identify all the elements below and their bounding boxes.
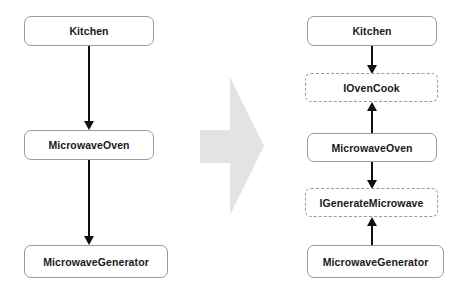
node-microwavegenerator-after[interactable]: MicrowaveGenerator: [307, 245, 444, 278]
node-label: MicrowaveOven: [48, 139, 129, 151]
edge-shaft: [371, 110, 373, 133]
edge-shaft: [88, 160, 90, 237]
arrowhead-down-icon: [84, 236, 94, 245]
arrowhead-up-icon: [367, 217, 377, 226]
node-kitchen-before[interactable]: Kitchen: [24, 16, 154, 46]
node-microwaveoven-before[interactable]: MicrowaveOven: [24, 130, 154, 160]
edge-shaft: [371, 46, 373, 66]
edge-microwaveoven-to-iovencook: [362, 102, 382, 133]
edge-kitchen-to-iovencook: [362, 46, 382, 74]
edge-kitchen-to-microwaveoven: [79, 46, 99, 130]
node-label: MicrowaveGenerator: [323, 256, 429, 268]
edge-shaft: [371, 162, 373, 181]
node-label: Kitchen: [352, 25, 391, 37]
diagram-canvas: Kitchen MicrowaveOven MicrowaveGenerator…: [0, 0, 461, 293]
node-iovencook-interface[interactable]: IOvenCook: [305, 73, 438, 102]
node-label: Kitchen: [69, 25, 108, 37]
node-label: MicrowaveGenerator: [43, 256, 149, 268]
arrowhead-up-icon: [367, 102, 377, 111]
node-label: IOvenCook: [343, 82, 399, 94]
node-microwaveoven-after[interactable]: MicrowaveOven: [307, 133, 437, 162]
node-label: MicrowaveOven: [331, 142, 412, 154]
node-igeneratemicrowave-interface[interactable]: IGenerateMicrowave: [305, 188, 438, 217]
arrowhead-down-icon: [84, 121, 94, 130]
node-label: IGenerateMicrowave: [320, 197, 424, 209]
node-microwavegenerator-before[interactable]: MicrowaveGenerator: [24, 245, 168, 278]
edge-microwavegenerator-to-igeneratemicrowave: [362, 217, 382, 246]
block-arrow-right-icon: [196, 75, 266, 217]
edge-microwaveoven-to-igeneratemicrowave: [362, 162, 382, 189]
edge-microwaveoven-to-microwavegenerator: [79, 160, 99, 245]
edge-shaft: [88, 46, 90, 122]
node-kitchen-after[interactable]: Kitchen: [307, 16, 437, 46]
edge-shaft: [371, 225, 373, 246]
